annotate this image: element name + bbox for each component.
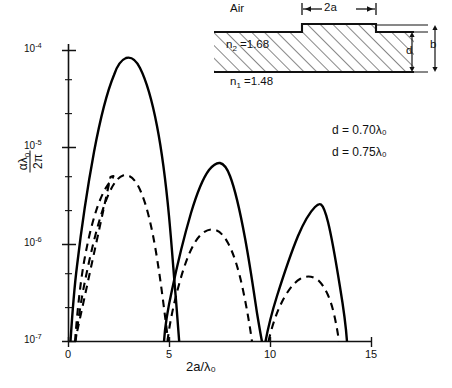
x-tick-label-15: 15 bbox=[365, 349, 377, 360]
legend-entry-solid: d = 0.70λ₀ bbox=[252, 122, 402, 144]
y-axis-title: αλ0 2π bbox=[17, 140, 44, 184]
x-tick-label-5: 5 bbox=[166, 349, 172, 360]
inset-label-air: Air bbox=[230, 2, 244, 14]
inset-label-b: b bbox=[430, 38, 436, 50]
y-tick-label-1e-4: 10-4 bbox=[24, 44, 42, 54]
x-axis-title: 2a/λ₀ bbox=[186, 360, 216, 373]
chart-legend: d = 0.70λ₀ d = 0.75λ₀ bbox=[252, 122, 402, 166]
legend-entry-dashed: d = 0.75λ₀ bbox=[252, 144, 402, 166]
inset-label-2a: 2a bbox=[324, 1, 337, 13]
x-tick-label-0: 0 bbox=[65, 349, 71, 360]
x-tick-label-10: 10 bbox=[264, 349, 276, 360]
inset-label-n1: n1 =1.48 bbox=[230, 75, 273, 87]
series-d-070-lambda-lobes bbox=[71, 58, 348, 342]
series-d-075-lambda bbox=[75, 176, 114, 341]
inset-label-d: d bbox=[406, 44, 412, 56]
figure-root: 10-4 10-5 10-6 10-7 0 5 10 15 αλ0 2π 2a/… bbox=[0, 0, 452, 388]
y-axis-title-denominator: 2π bbox=[32, 151, 44, 172]
y-axis-title-numerator: αλ0 bbox=[17, 151, 29, 172]
series-d-075-lobe-1 bbox=[75, 176, 114, 341]
legend-label-solid: d = 0.70λ₀ bbox=[332, 123, 387, 137]
y-tick-label-1e-6: 10-6 bbox=[24, 238, 42, 248]
y-tick-label-1e-7: 10-7 bbox=[24, 335, 42, 345]
inset-label-n2: n2 =1.68 bbox=[226, 38, 269, 50]
inset-waveguide-diagram: Air 2a n2 =1.68 n1 =1.48 d b bbox=[206, 0, 452, 100]
series-d-075-lambda-lobes bbox=[76, 175, 340, 341]
dimension-2a bbox=[302, 3, 376, 15]
legend-label-dashed: d = 0.75λ₀ bbox=[332, 145, 387, 159]
